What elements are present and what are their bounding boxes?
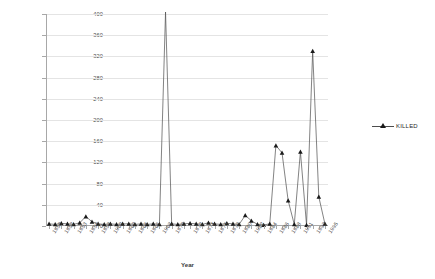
legend-marker-icon (372, 122, 394, 130)
x-axis-tick (49, 226, 50, 229)
x-axis-tick (300, 226, 301, 229)
data-point-marker (286, 198, 291, 202)
x-axis-tick (159, 226, 160, 229)
x-axis-tick (190, 226, 191, 229)
x-axis-tick (215, 226, 216, 229)
x-axis-title: Year (0, 261, 375, 268)
data-point-marker (243, 213, 248, 217)
data-point-marker (298, 150, 303, 154)
data-point-marker (317, 195, 322, 199)
x-axis-tick (123, 226, 124, 229)
data-point-marker (274, 143, 279, 147)
series-killed (0, 0, 435, 279)
legend-label-killed: KILLED (396, 123, 418, 129)
x-axis-tick (172, 226, 173, 229)
chart-container: Killed 04080120160200240280320360400 195… (0, 0, 435, 279)
data-point-marker (310, 49, 315, 53)
data-point-marker (84, 214, 89, 218)
x-axis-tick (74, 226, 75, 229)
chart-legend: KILLED (372, 122, 418, 130)
x-axis-tick (313, 226, 314, 229)
series-line (49, 12, 325, 225)
x-axis-tick (264, 226, 265, 229)
